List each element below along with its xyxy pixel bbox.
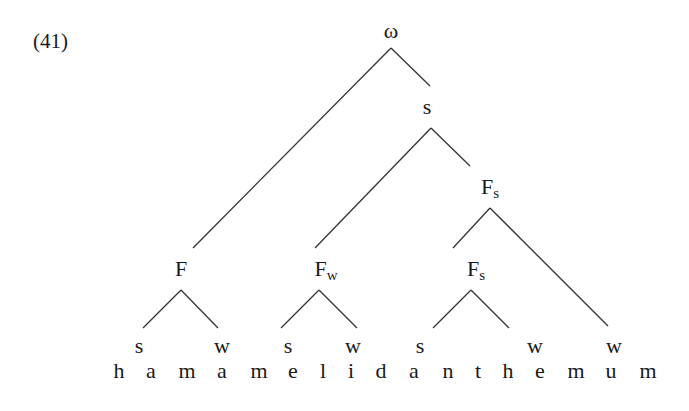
segment: m	[178, 360, 195, 382]
leaf-w: w	[345, 335, 361, 357]
node-Fs-upper: Fs	[481, 176, 499, 201]
leaf-w: w	[527, 335, 543, 357]
branch-Fw-left	[281, 290, 319, 328]
segment: m	[250, 360, 267, 382]
segment: a	[146, 360, 156, 382]
leaf-s: s	[416, 335, 425, 357]
node-s: s	[423, 96, 432, 118]
segment: h	[114, 360, 125, 382]
segment: u	[606, 360, 617, 382]
segment: h	[503, 360, 514, 382]
branch-Fs2-right	[471, 290, 509, 328]
branch-root-left	[193, 48, 391, 248]
branch-Fw-right	[319, 290, 357, 328]
branch-F-right	[181, 290, 218, 328]
branch-root-right	[391, 48, 430, 86]
node-Fw: Fw	[314, 258, 337, 283]
segment: a	[217, 360, 227, 382]
leaf-w: w	[606, 335, 622, 357]
example-number: (41)	[33, 29, 68, 54]
branch-s-right	[431, 128, 470, 166]
segment: m	[567, 360, 584, 382]
node-omega: ω	[384, 20, 398, 42]
segment: e	[288, 360, 298, 382]
branch-Fs2-left	[433, 290, 471, 328]
node-Fs-lower: Fs	[467, 258, 485, 283]
branch-Fs-right	[490, 208, 608, 326]
segment: a	[409, 360, 419, 382]
leaf-w: w	[214, 335, 230, 357]
segment: e	[535, 360, 545, 382]
branch-F-left	[143, 290, 181, 328]
segment: n	[443, 360, 454, 382]
node-F: F	[175, 258, 187, 280]
leaf-s: s	[135, 335, 144, 357]
branch-s-left	[315, 128, 431, 248]
leaf-s: s	[284, 335, 293, 357]
branch-Fs-left	[453, 208, 490, 248]
segment: l	[320, 360, 326, 382]
segment: i	[348, 360, 354, 382]
segment: m	[639, 360, 656, 382]
segment: t	[475, 360, 481, 382]
segment: d	[376, 360, 387, 382]
